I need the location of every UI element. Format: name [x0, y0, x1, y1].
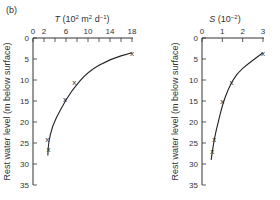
data-point-marker: x: [212, 135, 216, 144]
y-axis-label: Rest water level (m below surface): [170, 42, 180, 180]
y-tick-label: 20: [189, 118, 198, 127]
data-point-marker: x: [130, 49, 134, 58]
y-tick-label: 35: [189, 181, 198, 190]
data-point-marker: x: [72, 78, 76, 87]
y-tick-label: 35: [20, 181, 29, 190]
figure: (b) 02610141805101520253035T (102 m2 d−1…: [0, 0, 280, 200]
y-tick-label: 15: [189, 97, 198, 106]
storativity-chart: 012305101520253035S (10−2)Rest water lev…: [170, 14, 266, 190]
x-tick-label: 10: [84, 27, 93, 36]
data-point-marker: x: [45, 135, 49, 144]
y-tick-label: 0: [25, 34, 30, 43]
x-tick-label: 2: [42, 27, 47, 36]
x-tick-label: 1: [220, 27, 225, 36]
data-point-marker: x: [63, 95, 67, 104]
data-point-marker: x: [46, 145, 50, 154]
x-tick-label: 18: [128, 27, 137, 36]
transmissivity-chart: 02610141805101520253035T (102 m2 d−1)Res…: [2, 14, 137, 190]
y-tick-label: 25: [20, 139, 29, 148]
y-tick-label: 30: [189, 160, 198, 169]
x-tick-label: 6: [64, 27, 69, 36]
y-tick-label: 15: [20, 97, 29, 106]
x-tick-label: 14: [106, 27, 115, 36]
x-tick-label: 2: [240, 27, 245, 36]
y-tick-label: 20: [20, 118, 29, 127]
x-axis-label: S (10−2): [209, 14, 240, 24]
x-tick-label: 3: [261, 27, 266, 36]
fit-curve: [48, 53, 132, 156]
fit-curve: [211, 53, 263, 160]
y-axis-label: Rest water level (m below surface): [2, 42, 12, 180]
y-tick-label: 25: [189, 139, 198, 148]
y-tick-label: 0: [194, 34, 199, 43]
data-point-marker: x: [220, 97, 224, 106]
data-point-marker: x: [210, 147, 214, 156]
panel-label: (b): [6, 5, 17, 15]
x-tick-label: 0: [200, 27, 205, 36]
y-tick-label: 5: [194, 55, 199, 64]
y-tick-label: 5: [25, 55, 30, 64]
data-point-marker: x: [261, 49, 265, 58]
y-tick-label: 10: [189, 76, 198, 85]
data-point-marker: x: [229, 78, 233, 87]
x-tick-label: 0: [31, 27, 36, 36]
x-axis-label: T (102 m2 d−1): [54, 14, 109, 24]
y-tick-label: 30: [20, 160, 29, 169]
y-tick-label: 10: [20, 76, 29, 85]
